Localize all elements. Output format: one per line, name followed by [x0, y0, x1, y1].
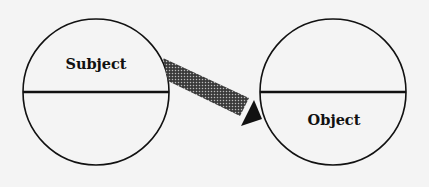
arrow-shaft	[163, 58, 249, 116]
object-node: Object	[260, 19, 406, 165]
subject-object-diagram: Subject Object	[0, 0, 429, 187]
subject-node: Subject	[23, 19, 169, 165]
subject-label: Subject	[65, 55, 126, 72]
object-label: Object	[308, 111, 361, 128]
relation-arrow	[163, 58, 262, 126]
